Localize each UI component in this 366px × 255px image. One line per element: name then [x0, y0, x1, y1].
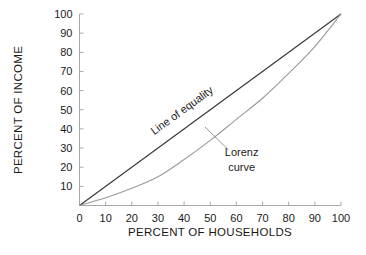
x-tick-label: 10: [100, 212, 112, 224]
lorenz-label-line-1: Lorenz: [225, 146, 259, 158]
y-tick-label: 80: [60, 46, 72, 58]
series-line-of-equality: [80, 14, 342, 206]
lorenz-curve-annotation: Lorenz curve: [205, 127, 258, 173]
y-tick-label: 30: [60, 142, 72, 154]
x-tick-label: 40: [178, 212, 190, 224]
lorenz-curve-figure: 102030405060708090100 010203040506070809…: [0, 0, 366, 255]
y-tick-label: 40: [60, 123, 72, 135]
x-axis-ticks: [106, 202, 341, 206]
y-axis-ticks: [80, 14, 84, 186]
x-tick-label: 90: [309, 212, 321, 224]
x-tick-label: 0: [76, 212, 82, 224]
y-tick-label: 50: [60, 104, 72, 116]
lorenz-label-line-2: curve: [228, 161, 255, 173]
x-axis-tick-labels: 0102030405060708090100: [76, 212, 350, 224]
x-tick-label: 60: [230, 212, 242, 224]
y-axis-title: PERCENT OF INCOME: [12, 46, 24, 174]
x-tick-label: 70: [256, 212, 268, 224]
x-tick-label: 20: [126, 212, 138, 224]
y-tick-label: 70: [60, 65, 72, 77]
line-of-equality-label: Line of equality: [148, 83, 215, 136]
y-tick-label: 20: [60, 161, 72, 173]
x-tick-label: 80: [283, 212, 295, 224]
x-axis-title: PERCENT OF HOUSEHOLDS: [128, 226, 292, 238]
y-tick-label: 100: [54, 8, 72, 20]
x-tick-label: 100: [332, 212, 350, 224]
y-tick-label: 10: [60, 180, 72, 192]
line-of-equality-annotation: Line of equality: [148, 83, 215, 136]
y-axis-tick-labels: 102030405060708090100: [54, 8, 72, 192]
y-tick-label: 90: [60, 27, 72, 39]
x-tick-label: 50: [204, 212, 216, 224]
y-tick-label: 60: [60, 85, 72, 97]
x-tick-label: 30: [152, 212, 164, 224]
data-series-layer: [80, 14, 342, 206]
chart-canvas: 102030405060708090100 010203040506070809…: [0, 0, 366, 255]
